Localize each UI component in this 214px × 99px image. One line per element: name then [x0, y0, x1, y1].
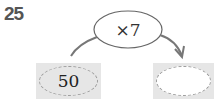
answer-field[interactable]	[156, 66, 211, 96]
answer-box[interactable]	[153, 63, 214, 99]
input-box: 50	[36, 63, 101, 99]
input-value: 50	[39, 66, 98, 96]
operation-label: ×7	[94, 11, 162, 48]
